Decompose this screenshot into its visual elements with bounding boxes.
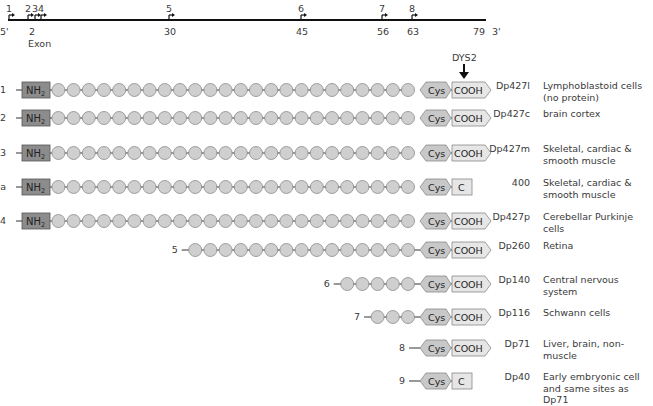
spectrin-repeat-circle <box>371 215 384 228</box>
spectrin-repeat-circle <box>341 147 354 160</box>
tissue-expression: Skeletal, cardiac & smooth muscle <box>543 143 632 166</box>
spectrin-repeat-circle <box>52 147 65 160</box>
spectrin-repeat-circle <box>295 84 308 97</box>
isoform-name: Dp71 <box>460 338 530 349</box>
spectrin-repeat-circle <box>402 112 415 125</box>
spectrin-repeat-circle <box>280 244 293 257</box>
spectrin-repeat-circle <box>174 84 187 97</box>
spectrin-repeat-circle <box>295 112 308 125</box>
spectrin-repeat-circle <box>265 244 278 257</box>
isoform-name: Dp427c <box>460 108 530 119</box>
spectrin-repeat-circle <box>265 147 278 160</box>
promoter-number: 8 <box>335 342 405 353</box>
cys-label: Cys <box>428 182 445 193</box>
promoter-number: 1 <box>0 84 6 95</box>
cys-label: Cys <box>428 85 445 96</box>
spectrin-repeat-circle <box>219 84 232 97</box>
nh2-domain: NH2 <box>22 82 50 98</box>
isoform-name: 400 <box>460 177 530 188</box>
spectrin-repeat-circle <box>189 112 202 125</box>
cys-label: Cys <box>428 279 445 290</box>
spectrin-repeat-circle <box>219 181 232 194</box>
nh2-domain: NH2 <box>22 213 50 229</box>
spectrin-repeat-circle <box>158 181 171 194</box>
spectrin-repeat-circle <box>356 278 369 291</box>
cys-domain: Cys <box>420 82 451 98</box>
spectrin-repeat-circle <box>128 112 141 125</box>
spectrin-repeat-circle <box>113 112 126 125</box>
spectrin-repeat-circle <box>341 215 354 228</box>
spectrin-repeat-circle <box>113 181 126 194</box>
cys-label: Cys <box>428 216 445 227</box>
spectrin-repeat-circle <box>356 84 369 97</box>
nh2-domain: NH2 <box>22 179 50 195</box>
spectrin-repeat-circle <box>280 215 293 228</box>
spectrin-repeat-circle <box>250 112 263 125</box>
promoter-number: 2 <box>0 112 6 123</box>
dys2-arrow-icon <box>459 64 469 79</box>
spectrin-repeat-circle <box>158 112 171 125</box>
spectrin-repeat-circle <box>113 84 126 97</box>
isoform-name: Dp260 <box>460 240 530 251</box>
nh2-domain: NH2 <box>22 110 50 126</box>
spectrin-repeat-circle <box>341 84 354 97</box>
spectrin-repeat-circle <box>295 215 308 228</box>
promoter-number: 4 <box>0 215 6 226</box>
spectrin-repeat-circle <box>371 84 384 97</box>
spectrin-repeat-circle <box>280 112 293 125</box>
spectrin-repeat-circle <box>82 181 95 194</box>
spectrin-repeat-circle <box>143 215 156 228</box>
promoter-number: 7 <box>290 311 360 322</box>
spectrin-repeat-circle <box>98 112 111 125</box>
spectrin-repeat-circle <box>189 181 202 194</box>
cys-label: Cys <box>428 376 445 387</box>
spectrin-repeat-circle <box>356 244 369 257</box>
spectrin-repeat-circle <box>219 244 232 257</box>
spectrin-repeat-circle <box>82 215 95 228</box>
spectrin-repeat-circle <box>371 311 384 324</box>
nh2-domain: NH2 <box>22 145 50 161</box>
tissue-expression: Lymphoblastoid cells (no protein) <box>543 80 642 103</box>
tissue-expression: Skeletal, cardiac & smooth muscle <box>543 177 632 200</box>
spectrin-repeat-circle <box>265 84 278 97</box>
cys-domain: Cys <box>420 110 451 126</box>
isoform-row: NH2CysC <box>16 179 472 195</box>
cys-domain: Cys <box>420 213 451 229</box>
cys-domain: Cys <box>420 145 451 161</box>
spectrin-repeat-circle <box>113 147 126 160</box>
spectrin-repeat-circle <box>52 215 65 228</box>
spectrin-repeat-circle <box>402 311 415 324</box>
cys-label: Cys <box>428 148 445 159</box>
spectrin-repeat-circle <box>265 181 278 194</box>
spectrin-repeat-circle <box>402 147 415 160</box>
spectrin-repeat-circle <box>189 84 202 97</box>
spectrin-repeat-circle <box>250 244 263 257</box>
spectrin-repeat-circle <box>341 278 354 291</box>
spectrin-repeat-circle <box>158 215 171 228</box>
spectrin-repeat-circle <box>250 181 263 194</box>
spectrin-repeat-circle <box>386 278 399 291</box>
spectrin-repeat-circle <box>128 147 141 160</box>
spectrin-repeat-circle <box>310 215 323 228</box>
spectrin-repeat-circle <box>189 244 202 257</box>
spectrin-repeat-circle <box>52 112 65 125</box>
spectrin-repeat-circle <box>234 215 247 228</box>
spectrin-repeat-circle <box>113 215 126 228</box>
spectrin-repeat-circle <box>386 112 399 125</box>
spectrin-repeat-circle <box>98 215 111 228</box>
spectrin-repeat-circle <box>295 181 308 194</box>
tissue-expression: Schwann cells <box>543 307 610 319</box>
spectrin-repeat-circle <box>341 181 354 194</box>
isoform-name: Dp116 <box>460 307 530 318</box>
spectrin-repeat-circle <box>98 84 111 97</box>
isoform-name: Dp427l <box>460 80 530 91</box>
spectrin-repeat-circle <box>265 112 278 125</box>
spectrin-repeat-circle <box>326 181 339 194</box>
isoform-name: Dp40 <box>460 371 530 382</box>
spectrin-repeat-circle <box>402 278 415 291</box>
spectrin-repeat-circle <box>204 112 217 125</box>
spectrin-repeat-circle <box>386 84 399 97</box>
spectrin-repeat-circle <box>234 181 247 194</box>
spectrin-repeat-circle <box>402 84 415 97</box>
tissue-expression: Retina <box>543 240 573 252</box>
